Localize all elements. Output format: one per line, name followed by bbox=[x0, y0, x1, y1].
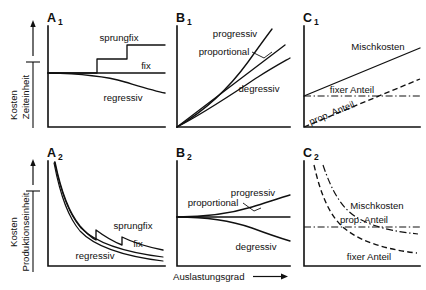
y-axis-numerator-row2: Kosten bbox=[8, 217, 19, 247]
panel-a2: A 2 sprungfix fix regressiv bbox=[47, 146, 165, 266]
panel-a2-label-sprungfix: sprungfix bbox=[114, 220, 153, 231]
panel-c2-label-sub: 2 bbox=[314, 152, 319, 162]
panel-a1-label-fix: fix bbox=[141, 60, 151, 71]
panel-a2-label-fix: fix bbox=[133, 238, 143, 249]
panel-c2-label-prop-anteil: prop. Anteil bbox=[340, 214, 388, 225]
panel-b1-label-main: B bbox=[176, 11, 185, 25]
panel-c1-label-main: C bbox=[303, 11, 312, 25]
panel-b2-label-proportional: proportional bbox=[188, 197, 239, 208]
panel-c2-label-main: C bbox=[303, 146, 312, 160]
x-axis-label: Auslastungsgrad bbox=[173, 271, 244, 282]
panel-b2-label-main: B bbox=[176, 146, 185, 160]
panel-a2-label-main: A bbox=[47, 146, 56, 160]
figure-canvas: Kosten Zeiteinheit A 1 sprungfix fix reg… bbox=[0, 0, 426, 290]
y-axis-numerator-row1: Kosten bbox=[8, 90, 19, 120]
panel-b2-label-sub: 2 bbox=[187, 152, 192, 162]
panel-b1-label-progressiv: progressiv bbox=[213, 28, 257, 39]
panel-a1-label-sub: 1 bbox=[58, 17, 63, 27]
panel-c2-label-fixer-anteil: fixer Anteil bbox=[347, 251, 391, 262]
panel-b2: B 2 progressiv proportional degressiv bbox=[176, 146, 290, 266]
panel-c1-label-prop-anteil: prop. Anteil bbox=[307, 98, 356, 127]
panel-c1-label-fixer-anteil: fixer Anteil bbox=[330, 84, 374, 95]
panel-a1-label-main: A bbox=[47, 11, 56, 25]
panel-b1-label-proportional: proportional bbox=[199, 46, 250, 57]
panel-a2-curve-sprungfix bbox=[55, 162, 163, 250]
panel-a2-label-sub: 2 bbox=[58, 152, 63, 162]
panel-a1-curve-regressiv bbox=[48, 73, 165, 93]
y-axis-arrowhead-row2 bbox=[30, 159, 35, 166]
panel-b1: B 1 progressiv proportional degressiv bbox=[176, 11, 290, 127]
panel-c1-label-sub: 1 bbox=[314, 17, 319, 27]
panel-b1-axes bbox=[177, 26, 290, 127]
panel-c2: C 2 Mischkosten prop. Anteil fixer Antei… bbox=[303, 146, 420, 266]
y-axis-denominator-row1: Zeiteinheit bbox=[20, 75, 31, 120]
y-axis-label-row2: Kosten Produktionseinheit bbox=[8, 159, 40, 272]
panel-b2-label-degressiv: degressiv bbox=[235, 241, 276, 252]
x-axis-arrowhead bbox=[281, 274, 288, 280]
panel-c2-label-mischkosten: Mischkosten bbox=[350, 200, 403, 211]
y-axis-denominator-row2: Produktionseinheit bbox=[20, 192, 31, 271]
panel-a1-label-sprungfix: sprungfix bbox=[100, 32, 139, 43]
panel-b2-curve-degressiv bbox=[177, 217, 290, 241]
panel-a2-curve-fix bbox=[55, 162, 164, 257]
panel-b1-label-degressiv: degressiv bbox=[238, 83, 279, 94]
cost-behaviour-figure: Kosten Zeiteinheit A 1 sprungfix fix reg… bbox=[0, 0, 426, 290]
y-axis-arrowhead-row1 bbox=[30, 20, 35, 27]
panel-a1-label-regressiv: regressiv bbox=[104, 92, 143, 103]
panel-a1: A 1 sprungfix fix regressiv bbox=[47, 11, 165, 127]
panel-b1-label-sub: 1 bbox=[187, 17, 192, 27]
y-axis-label-row1: Kosten Zeiteinheit bbox=[8, 20, 40, 128]
panel-b1-curve-progressiv bbox=[177, 29, 272, 127]
x-axis-label-group: Auslastungsgrad bbox=[173, 271, 288, 282]
panel-c1-label-mischkosten: Mischkosten bbox=[351, 41, 404, 52]
panel-a2-label-regressiv: regressiv bbox=[76, 250, 115, 261]
panel-c1: C 1 Mischkosten fixer Anteil prop. Antei… bbox=[303, 11, 420, 127]
